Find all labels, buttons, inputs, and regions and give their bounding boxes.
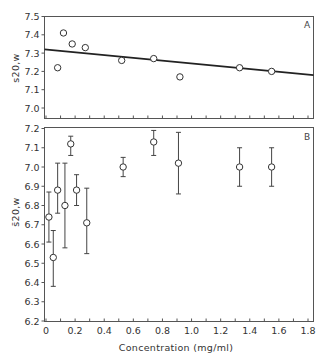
- y-tick-label: 6.8: [24, 200, 39, 211]
- data-point-with-error-bar: [151, 130, 157, 155]
- data-point: [69, 41, 75, 47]
- panel-b: 6.26.36.46.56.66.76.86.97.07.17.2 00.20.…: [10, 123, 316, 353]
- x-tick-label: 0.2: [68, 325, 83, 336]
- data-point: [236, 164, 242, 170]
- panel-a-y-axis-title: s20,w: [10, 53, 21, 82]
- panel-a: 7.07.17.27.37.47.5 A s20,w: [10, 11, 314, 119]
- panel-b-y-axis-title: s̄20,w: [10, 197, 21, 226]
- panel-a-frame: [45, 17, 314, 119]
- data-point: [62, 202, 68, 208]
- y-tick-label: 6.7: [24, 219, 39, 230]
- panel-b-label: B: [304, 132, 310, 142]
- data-point: [46, 214, 52, 220]
- data-point: [82, 44, 88, 50]
- x-axis-title: Concentration (mg/ml): [119, 342, 233, 353]
- y-tick-label: 7.4: [24, 29, 39, 40]
- x-tick-label: 0.8: [155, 325, 170, 336]
- sedimentation-chart: 7.07.17.27.37.47.5 A s20,w 6.26.36.46.56…: [0, 0, 330, 357]
- x-tick-label: 0.4: [97, 325, 112, 336]
- data-point: [151, 139, 157, 145]
- y-tick-label: 6.9: [24, 181, 39, 192]
- data-point: [68, 141, 74, 147]
- data-point-with-error-bar: [268, 148, 274, 187]
- panel-a-label: A: [304, 20, 311, 30]
- data-point-with-error-bar: [62, 163, 68, 248]
- x-tick-label: 1.2: [213, 325, 228, 336]
- data-point: [50, 254, 56, 260]
- data-point-with-error-bar: [68, 136, 74, 155]
- y-tick-label: 7.1: [24, 84, 39, 95]
- y-tick-label: 7.0: [24, 162, 39, 173]
- y-tick-label: 7.5: [24, 11, 39, 22]
- data-point: [120, 164, 126, 170]
- panel-a-points: [54, 30, 274, 80]
- data-point-with-error-bar: [84, 188, 90, 253]
- x-tick-label: 1.6: [271, 325, 286, 336]
- panel-b-points: [46, 130, 275, 286]
- data-point: [268, 68, 274, 74]
- data-point-with-error-bar: [236, 148, 242, 187]
- x-tick-label: 0.6: [126, 325, 141, 336]
- x-tick-label: 1.8: [300, 325, 315, 336]
- data-point-with-error-bar: [120, 157, 126, 176]
- data-point: [54, 65, 60, 71]
- y-tick-label: 7.0: [24, 103, 39, 114]
- data-point-with-error-bar: [46, 192, 52, 242]
- data-point: [175, 160, 181, 166]
- data-point: [118, 57, 124, 63]
- y-tick-label: 7.3: [24, 48, 39, 59]
- data-point: [151, 55, 157, 61]
- data-point: [84, 220, 90, 226]
- data-point: [236, 65, 242, 71]
- panel-a-y-axis: 7.07.17.27.37.47.5: [24, 11, 44, 114]
- y-tick-label: 6.6: [24, 239, 39, 250]
- data-point: [177, 74, 183, 80]
- x-tick-label: 1.0: [184, 325, 199, 336]
- x-tick-label: 0: [43, 325, 49, 336]
- panel-b-y-axis: 6.26.36.46.56.66.76.86.97.07.17.2: [24, 123, 44, 327]
- data-point: [73, 187, 79, 193]
- y-tick-label: 7.1: [24, 142, 39, 153]
- x-tick-label: 1.4: [242, 325, 257, 336]
- data-point-with-error-bar: [50, 231, 56, 287]
- data-point-with-error-bar: [73, 175, 79, 206]
- data-point: [60, 30, 66, 36]
- y-tick-label: 6.2: [24, 316, 39, 327]
- y-tick-label: 7.2: [24, 66, 39, 77]
- data-point: [268, 164, 274, 170]
- y-tick-label: 7.2: [24, 123, 39, 134]
- data-point-with-error-bar: [175, 132, 181, 194]
- y-tick-label: 6.4: [24, 277, 39, 288]
- y-tick-label: 6.5: [24, 258, 39, 269]
- data-point: [54, 187, 60, 193]
- y-tick-label: 6.3: [24, 296, 39, 307]
- data-point-with-error-bar: [54, 163, 60, 213]
